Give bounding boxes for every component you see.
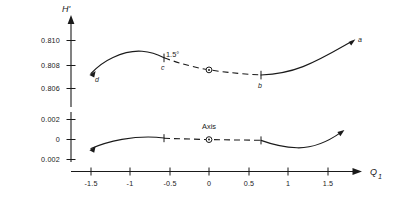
lower-arrow-left [89,146,95,153]
upper-angle-annotation: 1.5° [166,50,179,59]
lower-curve-solid-right [261,132,341,147]
xtick-label-0: -1.5 [84,179,97,188]
x-axis-title-subscript: 1 [378,172,382,181]
upper-point-label-d: d [95,76,100,83]
xtick-label-1: -1 [127,179,134,188]
xtick-label-5: 1 [286,179,290,188]
lower-panel: 0.002 0 0.002 Axis [41,112,382,188]
lower-ytick-label-2: 0.002 [41,155,60,164]
upper-ytick-label-0: 0.810 [41,36,60,45]
upper-point-label-a: a [358,36,362,43]
upper-origin-marker-dot [208,69,210,71]
xtick-label-2: -0.5 [163,179,176,188]
lower-ytick-label-1: 0 [56,135,60,144]
xtick-label-6: 1.5 [323,179,334,188]
upper-ytick-label-1: 0.808 [41,61,60,70]
scientific-figure: H' 0.810 0.808 0.806 1.5° d [0,0,398,197]
upper-y-axis [68,15,75,107]
upper-point-label-b: b [258,82,262,89]
upper-arrow-a [349,39,356,45]
x-axis [71,168,362,175]
lower-arrow-right [337,130,344,136]
lower-curve-solid-left [91,137,164,149]
upper-y-axis-title: H' [62,4,70,14]
upper-curve-solid-right [261,41,352,75]
x-axis-title: Q 1 [370,167,382,181]
upper-ytick-label-2: 0.806 [41,84,60,93]
lower-axis-annotation: Axis [202,122,216,131]
x-axis-title-main: Q [370,167,377,177]
xtick-label-3: 0 [207,179,211,188]
lower-origin-marker-dot [208,139,210,141]
upper-point-label-c: c [161,64,165,71]
lower-ytick-label-0: 0.002 [41,115,60,124]
xtick-label-4: 0.5 [244,179,255,188]
lower-curve-dashed-center [164,138,261,140]
upper-curve-solid-left [91,51,164,73]
upper-panel: H' 0.810 0.808 0.806 1.5° d [41,4,362,107]
upper-curve-dashed-center [164,58,261,75]
